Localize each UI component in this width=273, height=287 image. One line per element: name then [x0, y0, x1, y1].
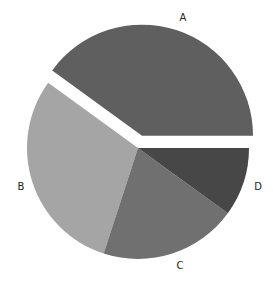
slice-label-a: A — [180, 12, 187, 23]
slice-label-b: B — [18, 181, 25, 192]
pie-slices — [27, 25, 253, 259]
slice-label-d: D — [254, 181, 262, 192]
pie-chart: A B C D — [0, 0, 273, 287]
slice-label-c: C — [177, 260, 184, 271]
